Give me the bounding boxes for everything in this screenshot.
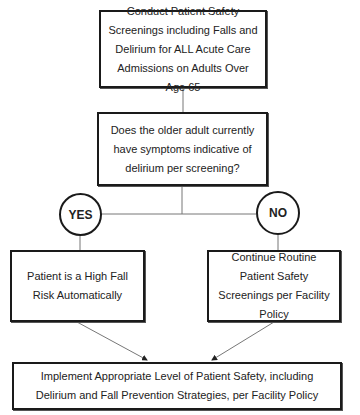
start-box: Conduct Patient Safety Screenings includ… <box>99 10 267 88</box>
question-box: Does the older adult currently have symp… <box>97 112 268 186</box>
yes-outcome-box: Patient is a High Fall Risk Automaticall… <box>10 250 145 322</box>
question-box-text: Does the older adult currently have symp… <box>105 121 260 178</box>
start-box-text: Conduct Patient Safety Screenings includ… <box>107 2 259 97</box>
yes-outcome-text: Patient is a High Fall Risk Automaticall… <box>18 267 137 305</box>
no-circle: NO <box>256 191 300 235</box>
final-box-text: Implement Appropriate Level of Patient S… <box>24 367 330 405</box>
final-box: Implement Appropriate Level of Patient S… <box>12 362 342 410</box>
no-label: NO <box>269 206 287 220</box>
yes-label: YES <box>68 208 92 222</box>
yes-circle: YES <box>59 193 102 236</box>
no-outcome-box: Continue Routine Patient Safety Screenin… <box>207 250 341 322</box>
no-outcome-text: Continue Routine Patient Safety Screenin… <box>215 248 333 324</box>
